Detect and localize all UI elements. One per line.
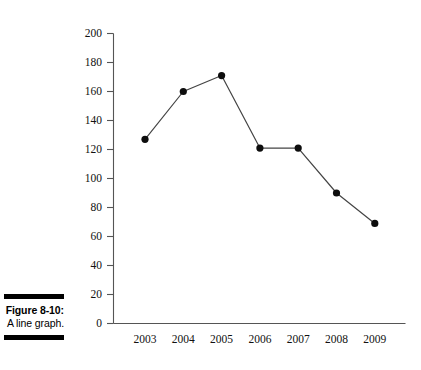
y-tick-label: 140 [85, 114, 103, 126]
x-tick-label: 2008 [325, 333, 348, 345]
y-tick-label: 20 [91, 288, 103, 300]
x-tick-label: 2006 [248, 333, 271, 345]
y-tick-label: 160 [85, 85, 103, 97]
y-tick-label: 200 [85, 27, 103, 39]
line-chart: 020406080100120140160180200 200320042005… [0, 0, 421, 370]
data-point-marker [295, 144, 302, 151]
x-tick-label: 2009 [363, 333, 386, 345]
y-tick-label: 40 [91, 259, 103, 271]
data-point-marker [141, 136, 148, 143]
x-tick-label: 2005 [210, 333, 233, 345]
x-axis: 2003200420052006200720082009 [114, 324, 406, 345]
x-tick-label: 2004 [172, 333, 195, 345]
data-markers [141, 72, 378, 227]
x-tick-label: 2007 [287, 333, 310, 345]
figure-container: Figure 8-10: A line graph. 0204060801001… [0, 0, 421, 370]
y-tick-label: 180 [85, 56, 103, 68]
y-tick-label: 0 [96, 317, 102, 329]
y-tick-label: 120 [85, 143, 103, 155]
data-point-marker [371, 220, 378, 227]
y-tick-label: 80 [91, 201, 103, 213]
data-point-marker [180, 88, 187, 95]
chart-canvas: 020406080100120140160180200 200320042005… [0, 0, 421, 370]
data-point-marker [256, 144, 263, 151]
y-axis: 020406080100120140160180200 [85, 27, 114, 329]
x-tick-label: 2003 [134, 333, 157, 345]
y-tick-label: 60 [91, 230, 103, 242]
data-point-marker [333, 189, 340, 196]
data-point-marker [218, 72, 225, 79]
y-tick-label: 100 [85, 172, 103, 184]
